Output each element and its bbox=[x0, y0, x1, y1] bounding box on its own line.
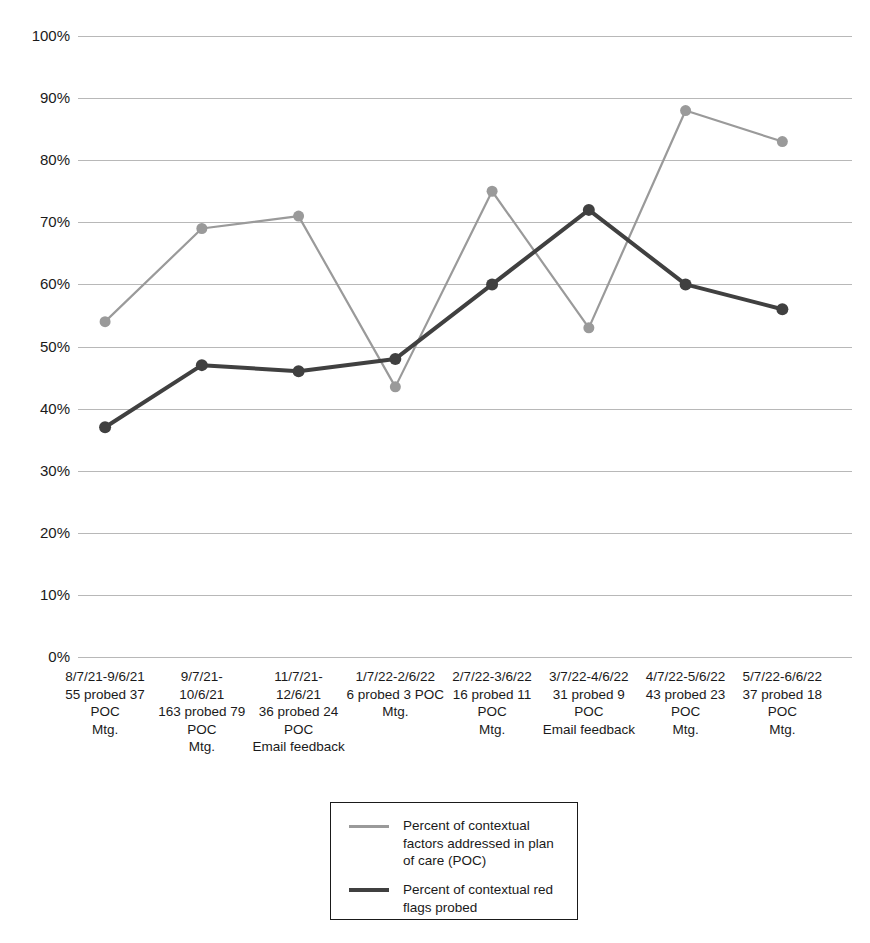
plot-area bbox=[78, 36, 852, 657]
y-tick-label: 100% bbox=[8, 28, 70, 43]
legend-swatch bbox=[349, 825, 389, 828]
x-tick-label-line: 43 probed 23 bbox=[632, 686, 740, 704]
legend-item: Percent of contextual factors addressed … bbox=[331, 817, 577, 870]
y-tick-label: 20% bbox=[8, 525, 70, 540]
gridline bbox=[78, 657, 852, 658]
legend-label: Percent of contextual factors addressed … bbox=[403, 817, 563, 870]
legend-swatch bbox=[349, 888, 389, 892]
x-tick-label-line: 55 probed 37 bbox=[51, 686, 159, 704]
y-tick-label: 50% bbox=[8, 339, 70, 354]
x-tick-label-line: 6 probed 3 POC bbox=[341, 686, 449, 704]
x-tick-label-line: 2/7/22-3/6/22 bbox=[438, 668, 546, 686]
x-tick-label-line: POC bbox=[438, 703, 546, 721]
series-line bbox=[105, 210, 782, 427]
x-tick-label-line: Mtg. bbox=[341, 703, 449, 721]
x-tick-label-line: POC bbox=[535, 703, 643, 721]
x-tick-label-line: POC bbox=[632, 703, 740, 721]
x-tick-label: 11/7/21-12/6/2136 probed 24POCEmail feed… bbox=[245, 668, 353, 756]
x-tick-label: 4/7/22-5/6/2243 probed 23POCMtg. bbox=[632, 668, 740, 738]
x-tick-label-line: 10/6/21 bbox=[148, 686, 256, 704]
series-line bbox=[105, 111, 782, 387]
data-point-marker bbox=[680, 278, 692, 290]
y-tick-label: 80% bbox=[8, 152, 70, 167]
x-tick-label: 8/7/21-9/6/2155 probed 37POCMtg. bbox=[51, 668, 159, 738]
data-point-marker bbox=[583, 322, 594, 333]
x-tick-label-line: 5/7/22-6/6/22 bbox=[728, 668, 836, 686]
x-tick-label-line: 3/7/22-4/6/22 bbox=[535, 668, 643, 686]
x-tick-label-line: 1/7/22-2/6/22 bbox=[341, 668, 449, 686]
x-tick-label-line: 11/7/21- bbox=[245, 668, 353, 686]
y-axis: 0%10%20%30%40%50%60%70%80%90%100% bbox=[0, 0, 70, 943]
x-tick-label-line: POC bbox=[148, 721, 256, 739]
x-tick-label-line: 8/7/21-9/6/21 bbox=[51, 668, 159, 686]
x-tick-label-line: Mtg. bbox=[728, 721, 836, 739]
y-tick-label: 40% bbox=[8, 401, 70, 416]
x-tick-label-line: Email feedback bbox=[245, 738, 353, 756]
x-tick-label: 1/7/22-2/6/226 probed 3 POCMtg. bbox=[341, 668, 449, 721]
line-chart: 0%10%20%30%40%50%60%70%80%90%100% 8/7/21… bbox=[0, 0, 870, 943]
x-tick-label-line: Mtg. bbox=[148, 738, 256, 756]
y-tick-label: 10% bbox=[8, 587, 70, 602]
x-tick-label-line: Mtg. bbox=[632, 721, 740, 739]
x-tick-label-line: Mtg. bbox=[51, 721, 159, 739]
x-tick-label-line: 4/7/22-5/6/22 bbox=[632, 668, 740, 686]
data-point-marker bbox=[196, 359, 208, 371]
x-tick-label-line: POC bbox=[245, 721, 353, 739]
x-tick-label: 9/7/21-10/6/21163 probed 79POCMtg. bbox=[148, 668, 256, 756]
y-tick-label: 90% bbox=[8, 90, 70, 105]
series-layer bbox=[78, 36, 852, 657]
legend-label: Percent of contextual red flags probed bbox=[403, 881, 563, 916]
data-point-marker bbox=[293, 365, 305, 377]
y-tick-label: 30% bbox=[8, 463, 70, 478]
x-tick-label-line: 31 probed 9 bbox=[535, 686, 643, 704]
x-tick-label-line: Mtg. bbox=[438, 721, 546, 739]
y-tick-label: 60% bbox=[8, 276, 70, 291]
y-tick-label: 0% bbox=[8, 649, 70, 664]
data-point-marker bbox=[777, 136, 788, 147]
data-point-marker bbox=[100, 316, 111, 327]
legend-item: Percent of contextual red flags probed bbox=[331, 881, 577, 916]
data-point-marker bbox=[293, 211, 304, 222]
chart-legend: Percent of contextual factors addressed … bbox=[330, 802, 578, 920]
x-tick-label-line: 163 probed 79 bbox=[148, 703, 256, 721]
data-point-marker bbox=[776, 303, 788, 315]
x-tick-label-line: 37 probed 18 bbox=[728, 686, 836, 704]
data-point-marker bbox=[487, 186, 498, 197]
x-tick-label: 5/7/22-6/6/2237 probed 18POCMtg. bbox=[728, 668, 836, 738]
data-point-marker bbox=[680, 105, 691, 116]
x-tick-label-line: 36 probed 24 bbox=[245, 703, 353, 721]
x-tick-label-line: POC bbox=[51, 703, 159, 721]
data-point-marker bbox=[583, 204, 595, 216]
data-point-marker bbox=[99, 421, 111, 433]
data-point-marker bbox=[389, 353, 401, 365]
x-axis: 8/7/21-9/6/2155 probed 37POCMtg.9/7/21-1… bbox=[78, 668, 852, 778]
x-tick-label-line: Email feedback bbox=[535, 721, 643, 739]
data-point-marker bbox=[390, 381, 401, 392]
x-tick-label-line: 16 probed 11 bbox=[438, 686, 546, 704]
data-point-marker bbox=[196, 223, 207, 234]
x-tick-label-line: POC bbox=[728, 703, 836, 721]
data-point-marker bbox=[486, 278, 498, 290]
x-tick-label: 2/7/22-3/6/2216 probed 11POCMtg. bbox=[438, 668, 546, 738]
x-tick-label-line: 12/6/21 bbox=[245, 686, 353, 704]
x-tick-label-line: 9/7/21- bbox=[148, 668, 256, 686]
x-tick-label: 3/7/22-4/6/2231 probed 9POCEmail feedbac… bbox=[535, 668, 643, 738]
y-tick-label: 70% bbox=[8, 214, 70, 229]
